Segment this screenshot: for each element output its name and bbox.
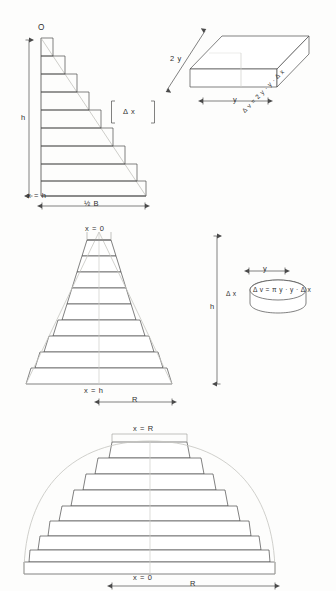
- cone-height-label: h: [210, 303, 215, 311]
- disc-thickness-label: Δ x: [226, 291, 236, 298]
- disc-radius-label: y: [263, 265, 267, 273]
- calculus-slicing-figure: O h x = h ½ B Δ x 2 y Δ v = 2 y · y · Δ …: [0, 0, 336, 591]
- slab-element-solid: [190, 36, 309, 87]
- dome-staircase-steps: [24, 434, 275, 574]
- delta-x-bracket-right: [151, 101, 155, 123]
- figure-canvas: [0, 0, 336, 591]
- delta-x-bracket-left: [112, 101, 116, 123]
- cone-staircase-steps: [26, 232, 172, 384]
- slab-width-label: y: [233, 96, 237, 104]
- dome-x-top-label: x = R: [133, 425, 154, 433]
- wedge-x-bottom-label: x = h: [27, 192, 46, 200]
- cone-x-top-label: x = 0: [85, 225, 104, 233]
- wedge-height-label: h: [21, 114, 26, 122]
- wedge-staircase-steps: [41, 38, 146, 196]
- wedge-base-label: ½ B: [84, 200, 99, 208]
- dome-radius-label: R: [190, 580, 196, 588]
- dome-x-bottom-label: x = 0: [133, 574, 152, 582]
- cone-x-bottom-label: x = h: [84, 387, 103, 395]
- wedge-height-dimension: [26, 40, 33, 196]
- wedge-delta-x-label: Δ x: [123, 108, 135, 116]
- cone-radius-label: R: [132, 396, 138, 404]
- disc-volume-formula: Δ v = π y · y · Δ x: [253, 287, 311, 294]
- origin-label: O: [38, 24, 45, 32]
- disc-element-solid: [250, 280, 306, 313]
- slab-depth-label: 2 y: [170, 55, 182, 63]
